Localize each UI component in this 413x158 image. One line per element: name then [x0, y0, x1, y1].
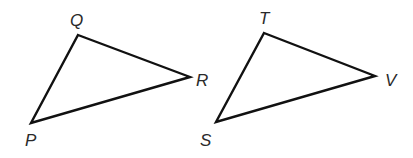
vertex-label-v: V — [385, 71, 398, 90]
triangle-stv-outline — [216, 33, 375, 122]
vertex-label-r: R — [196, 71, 208, 90]
vertex-label-s: S — [200, 131, 212, 150]
triangle-pqr-outline — [31, 35, 190, 123]
triangles-diagram: Q R P T V S — [0, 0, 413, 158]
vertex-label-q: Q — [70, 11, 83, 30]
vertex-label-t: T — [259, 9, 271, 28]
triangle-stv: T V S — [200, 9, 398, 150]
vertex-label-p: P — [25, 131, 37, 150]
triangle-pqr: Q R P — [25, 11, 208, 150]
